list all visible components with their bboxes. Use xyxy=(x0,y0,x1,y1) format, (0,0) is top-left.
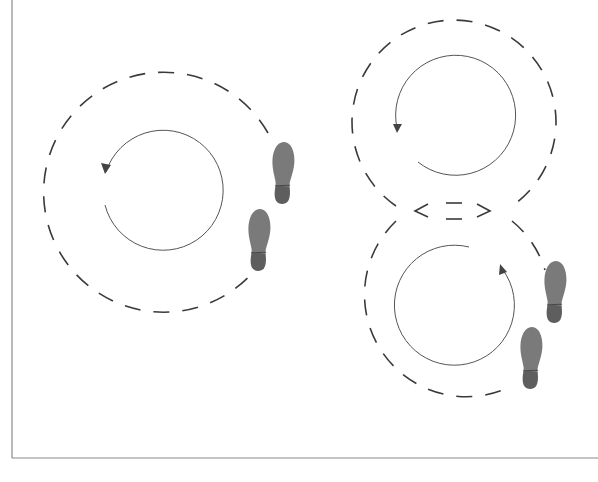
arrowhead-icon xyxy=(393,124,402,133)
rotation-arc-bottom xyxy=(394,245,514,365)
arrowhead-icon xyxy=(101,163,111,174)
dashed-travel-path xyxy=(44,72,268,312)
rotation-arc-top xyxy=(396,55,516,175)
dance-step-diagram xyxy=(0,0,598,482)
dashed-travel-path-top xyxy=(352,20,556,206)
single-circle-figure xyxy=(44,72,295,312)
figure-eight-figure xyxy=(352,20,567,397)
crossing-marks xyxy=(415,203,490,219)
diagram-frame xyxy=(12,0,598,458)
shoe-sole-icon xyxy=(543,261,567,324)
shoe-sole-icon xyxy=(271,142,295,205)
rotation-arc xyxy=(105,130,223,250)
dashed-travel-path-bottom xyxy=(512,221,545,270)
shoe-sole-icon xyxy=(519,327,543,390)
shoe-sole-icon xyxy=(247,209,271,272)
